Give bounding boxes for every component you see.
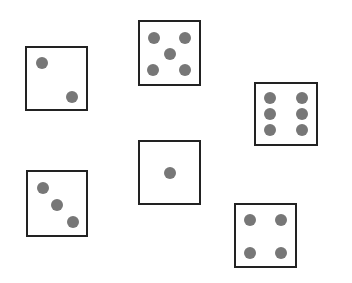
pip-dot — [264, 108, 276, 120]
pip-dot — [244, 247, 256, 259]
pip-dot — [164, 167, 176, 179]
pip-dot — [275, 247, 287, 259]
die-one — [138, 140, 201, 205]
pip-dot — [179, 32, 191, 44]
pip-dot — [296, 124, 308, 136]
pip-dot — [244, 214, 256, 226]
die-two — [25, 46, 88, 111]
pip-dot — [296, 92, 308, 104]
pip-dot — [179, 64, 191, 76]
pip-dot — [296, 108, 308, 120]
die-five — [138, 20, 201, 86]
pip-dot — [148, 32, 160, 44]
pip-dot — [147, 64, 159, 76]
pip-dot — [275, 214, 287, 226]
die-six — [254, 82, 318, 146]
pip-dot — [67, 216, 79, 228]
pip-dot — [36, 57, 48, 69]
die-four — [234, 203, 297, 268]
pip-dot — [51, 199, 63, 211]
pip-dot — [264, 124, 276, 136]
die-three — [26, 170, 88, 237]
pip-dot — [164, 48, 176, 60]
pip-dot — [66, 91, 78, 103]
pip-dot — [264, 92, 276, 104]
pip-dot — [37, 182, 49, 194]
